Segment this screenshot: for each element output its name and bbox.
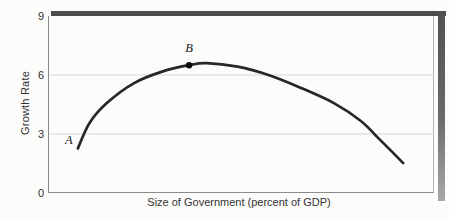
- y-tick-6: 6: [14, 69, 44, 81]
- point-label-B: B: [185, 41, 193, 56]
- y-tick-9: 9: [14, 10, 44, 22]
- y-tick-3: 3: [14, 128, 44, 140]
- growth-vs-government-size-chart: Growth Rate Size of Government (percent …: [0, 0, 449, 219]
- point-marker-B: [186, 62, 192, 68]
- growth-curve: [78, 63, 403, 163]
- x-axis-title: Size of Government (percent of GDP): [147, 196, 330, 208]
- curve-svg: [0, 0, 449, 219]
- y-tick-0: 0: [14, 187, 44, 199]
- point-label-A: A: [65, 133, 73, 148]
